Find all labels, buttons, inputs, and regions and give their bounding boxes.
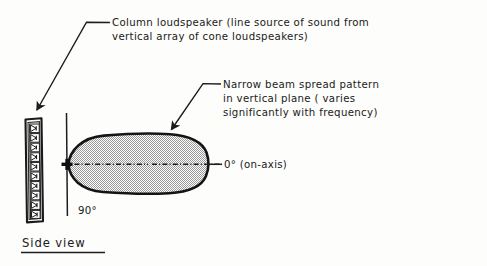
cone-driver [30, 191, 40, 200]
cone-driver [30, 182, 40, 191]
on-axis-label: 0° (on-axis) [224, 159, 287, 170]
cone-driver [30, 143, 40, 152]
cone-driver [30, 134, 40, 143]
column-loudspeaker-enclosure [26, 118, 44, 222]
cone-driver [30, 153, 40, 162]
annotation-beam-pattern-line-2: in vertical plane ( varies [223, 93, 355, 104]
annotation-column-loudspeaker: Column loudspeaker (line source of sound… [112, 17, 369, 42]
cone-driver [30, 162, 40, 171]
annotation-beam-pattern-line-3: significantly with frequency) [223, 107, 378, 118]
cone-driver [30, 201, 40, 210]
leader-line-beam-pattern [172, 84, 222, 130]
cone-driver-stack [30, 124, 40, 218]
annotation-beam-pattern: Narrow beam spread pattern in vertical p… [223, 79, 379, 118]
annotation-beam-pattern-line-1: Narrow beam spread pattern [223, 79, 379, 90]
annotation-column-loudspeaker-line-1: Column loudspeaker (line source of sound… [112, 17, 369, 28]
loudspeaker-polar-diagram: Column loudspeaker (line source of sound… [0, 0, 487, 266]
figure-caption-text: Side view [22, 236, 86, 250]
diagram-canvas: Column loudspeaker (line source of sound… [0, 0, 487, 266]
cone-driver [30, 124, 40, 133]
cone-driver [30, 172, 40, 181]
cone-driver [31, 210, 41, 218]
perpendicular-angle-label: 90° [78, 205, 97, 216]
figure-caption: Side view [21, 236, 105, 253]
leader-line-column-loudspeaker [37, 22, 110, 110]
annotation-column-loudspeaker-line-2: vertical array of cone loudspeakers) [112, 31, 308, 42]
